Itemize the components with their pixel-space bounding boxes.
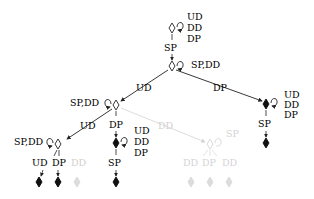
right-down-label: SP <box>258 118 272 129</box>
level1-loop-label: SP,DD <box>191 59 221 70</box>
self-loop-icon <box>47 139 53 147</box>
hollow-diamond-icon <box>169 61 175 71</box>
faded-loop-label: SP <box>226 128 240 139</box>
mid-down-label: SP <box>108 157 122 168</box>
state-tree-diagram: UD DD DP SP SP,DD UD DP UD DD DP SP SP,D… <box>0 0 314 199</box>
filled-diamond-icon <box>263 138 269 148</box>
faded-child-label-0: DD <box>183 157 199 168</box>
self-loop-icon <box>271 99 277 107</box>
faded-diamond-icon <box>207 177 213 187</box>
root-down-label: SP <box>164 42 178 53</box>
self-loop-icon <box>177 23 183 31</box>
self-loop-icon <box>177 62 183 70</box>
level2-down-edge-label: DP <box>109 119 124 130</box>
level1-right-edge-label: DP <box>213 82 228 93</box>
level3-child-label-dp: DP <box>52 157 67 168</box>
level2-mid-node: UD DD DP SP <box>108 125 150 187</box>
level3-left-node: SP,DD UD DP DD <box>14 136 87 187</box>
mid-loop-label-dp: DP <box>134 147 149 158</box>
level1-node: SP,DD UD DP <box>121 59 262 101</box>
level2-left-loop-label: SP,DD <box>70 97 100 108</box>
faded-diamond-icon <box>226 177 232 187</box>
faded-hollow-diamond-icon <box>207 139 213 149</box>
faded-child-label-2: DD <box>222 157 238 168</box>
hollow-diamond-icon <box>113 100 119 110</box>
level1-left-edge-label: UD <box>136 82 152 93</box>
root-node: UD DD DP SP <box>164 11 203 60</box>
hollow-diamond-icon <box>55 139 61 149</box>
filled-diamond-icon <box>263 99 269 109</box>
level2-right-edge-label: DD <box>158 120 174 131</box>
filled-diamond-icon <box>113 138 119 148</box>
root-loop-label-dd: DD <box>187 22 203 33</box>
self-loop-icon <box>121 138 127 146</box>
filled-diamond-icon <box>55 177 61 187</box>
level3-child-label-dd: DD <box>71 157 87 168</box>
mid-loop-label-dd: DD <box>134 136 150 147</box>
self-loop-icon <box>105 100 111 108</box>
hollow-diamond-icon <box>169 23 175 33</box>
filled-diamond-icon <box>36 177 42 187</box>
faded-diamond-icon <box>188 177 194 187</box>
root-loop-label-dp: DP <box>187 33 202 44</box>
level3-child-label-ud: UD <box>32 157 48 168</box>
faded-child-label-1: DP <box>202 157 217 168</box>
level2-left-edge-label: UD <box>80 120 96 131</box>
mid-loop-label-ud: UD <box>134 125 150 136</box>
faded-diamond-icon <box>74 177 80 187</box>
filled-diamond-icon <box>113 177 119 187</box>
right-branch-node: UD DD DP SP <box>258 89 300 148</box>
right-loop-label-dp: DP <box>284 109 299 120</box>
self-loop-icon <box>215 139 221 147</box>
level3-loop-label: SP,DD <box>14 136 44 147</box>
root-loop-label-ud: UD <box>187 11 203 22</box>
